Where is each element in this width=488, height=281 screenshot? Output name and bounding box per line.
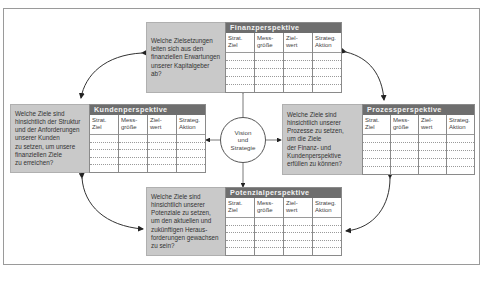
col-zielwert: Ziel- wert — [419, 115, 446, 134]
header-prozess: Prozessperspektive — [363, 105, 474, 115]
arrow-kunden-potenzial — [82, 178, 143, 229]
col-strateg-aktion: Strateg. Aktion — [447, 115, 474, 134]
col-zielwert: Ziel- wert — [148, 115, 176, 134]
vision-strategy-circle: Vision und Strategie — [220, 117, 266, 163]
col-strat-ziel: Strat. Ziel — [226, 33, 254, 52]
perspective-finanz: Welche Zielsetzungen leiten sich aus den… — [146, 22, 342, 93]
col-strat-ziel: Strat. Ziel — [363, 115, 390, 134]
col-messgroesse: Mess- größe — [119, 115, 147, 134]
header-finanz: Finanzperspektive — [226, 23, 341, 33]
header-potenzial: Potenzialperspektive — [226, 188, 341, 198]
table-kunden: Kundenperspektive Strat. Ziel Mess- größ… — [89, 104, 206, 173]
col-strateg-aktion: Strateg. Aktion — [313, 198, 341, 217]
col-strat-ziel: Strat. Ziel — [90, 115, 118, 134]
perspective-prozess: Welche Ziele sind hinsichtlich unserer P… — [282, 104, 475, 175]
arrow-finanz-kunden — [81, 53, 142, 98]
question-prozess: Welche Ziele sind hinsichtlich unserer P… — [282, 104, 362, 175]
question-finanz: Welche Zielsetzungen leiten sich aus den… — [146, 22, 225, 93]
col-messgroesse: Mess- größe — [255, 33, 283, 52]
perspective-kunden: Welche Ziele sind hinsichtlich der Struk… — [10, 104, 206, 173]
question-kunden: Welche Ziele sind hinsichtlich der Struk… — [10, 104, 89, 173]
col-strateg-aktion: Strateg. Aktion — [177, 115, 205, 134]
table-prozess: Prozessperspektive Strat. Ziel Mess- grö… — [362, 104, 475, 175]
col-strateg-aktion: Strateg. Aktion — [313, 33, 341, 52]
col-messgroesse: Mess- größe — [255, 198, 283, 217]
arrow-prozess-potenzial — [346, 178, 390, 231]
col-zielwert: Ziel- wert — [284, 33, 312, 52]
arrow-finanz-prozess — [346, 52, 384, 100]
table-potenzial: Potenzialperspektive Strat. Ziel Mess- g… — [225, 187, 342, 256]
question-potenzial: Welche Ziele sind hinsichtlich unserer P… — [146, 187, 225, 256]
table-finanz: Finanzperspektive Strat. Ziel Mess- größ… — [225, 22, 342, 93]
header-kunden: Kundenperspektive — [90, 105, 205, 115]
col-zielwert: Ziel- wert — [284, 198, 312, 217]
col-strat-ziel: Strat. Ziel — [226, 198, 254, 217]
col-messgroesse: Mess- größe — [391, 115, 418, 134]
perspective-potenzial: Welche Ziele sind hinsichtlich unserer P… — [146, 187, 342, 256]
